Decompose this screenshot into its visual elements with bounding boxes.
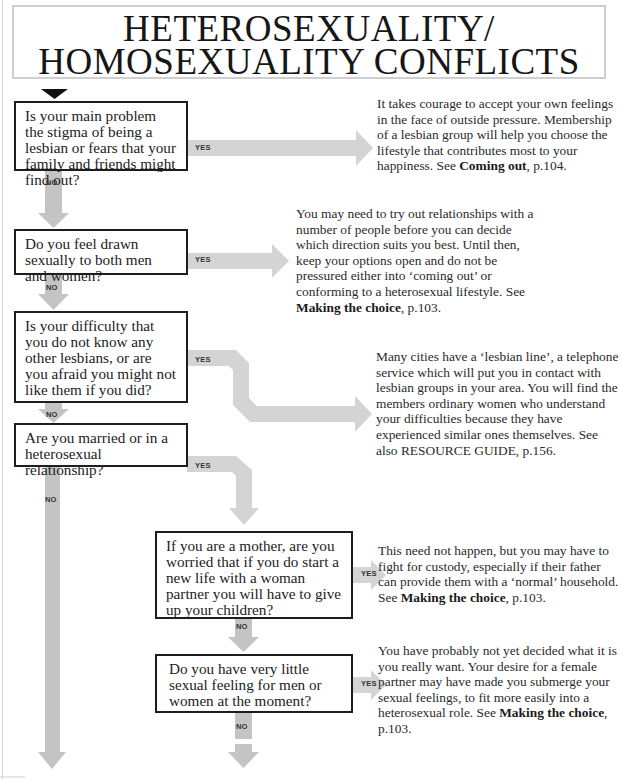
question-box-2: Do you feel drawn sexually to both men a… xyxy=(14,229,188,275)
question-box-1: Is your main problem the stigma of being… xyxy=(14,101,188,171)
no-label-q1: NO xyxy=(46,178,58,187)
no-label-q4: NO xyxy=(45,495,57,504)
answer-1: It takes courage to accept your own feel… xyxy=(377,96,617,174)
yes-label-q1: YES xyxy=(195,143,211,152)
start-triangle-icon xyxy=(41,89,68,99)
yes-label-q6: YES xyxy=(361,679,377,688)
answer-3: Many cities have a ‘lesbian line’, a tel… xyxy=(376,349,622,458)
cross-reference-link[interactable]: Making the choice xyxy=(296,300,401,315)
answer-6: You have probably not yet decided what i… xyxy=(378,643,622,737)
question-text: Do you have very little sexual feeling f… xyxy=(169,660,322,709)
no-arrow-q6 xyxy=(228,712,259,768)
question-box-5: If you are a mother, are you worried tha… xyxy=(155,531,353,619)
yes-arrow-q1 xyxy=(187,130,373,166)
cross-reference-link[interactable]: Coming out xyxy=(459,158,526,173)
cross-reference-link[interactable]: Making the choice xyxy=(401,590,506,605)
question-box-6: Do you have very little sexual feeling f… xyxy=(155,654,353,713)
answer-5: This need not happen, but you may have t… xyxy=(378,543,622,605)
question-box-3: Is your difficulty that you do not know … xyxy=(14,311,188,403)
no-arrow-q4 xyxy=(38,466,66,769)
question-text: Is your difficulty that you do not know … xyxy=(25,317,176,398)
yes-label-q5: YES xyxy=(361,569,377,578)
cross-reference-link[interactable]: Making the choice xyxy=(499,705,604,720)
question-box-4: Are you married or in a heterosexual rel… xyxy=(14,423,188,467)
yes-label-q4: YES xyxy=(195,461,211,470)
no-label-q2: NO xyxy=(46,283,58,292)
yes-label-q2: YES xyxy=(195,255,211,264)
no-label-q6: NO xyxy=(236,722,248,731)
no-label-q5: NO xyxy=(236,622,248,631)
question-text: If you are a mother, are you worried tha… xyxy=(166,537,341,618)
answer-2: You may need to try out relationships wi… xyxy=(296,206,546,315)
yes-arrow-q3 xyxy=(187,350,372,432)
yes-label-q3: YES xyxy=(195,355,211,364)
no-label-q3: NO xyxy=(46,410,58,419)
